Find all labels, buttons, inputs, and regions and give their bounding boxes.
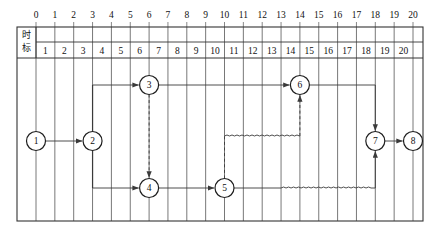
tick-label-18: 18 [371, 10, 381, 20]
node-8[interactable]: 8 [404, 132, 423, 151]
node-1[interactable]: 1 [27, 132, 46, 151]
tick-label-1: 1 [52, 10, 57, 20]
tick-label-16: 16 [333, 10, 343, 20]
diagram-canvas: 01234567891011121314151617181920 1234567… [0, 0, 426, 240]
node-6[interactable]: 6 [290, 76, 309, 95]
cell-number-10: 10 [210, 46, 220, 56]
tick-label-3: 3 [90, 10, 95, 20]
node-label-6: 6 [298, 80, 303, 90]
scale-header-char-0: 时 [22, 29, 31, 40]
cell-number-8: 8 [175, 46, 180, 56]
cell-number-16: 16 [323, 46, 333, 56]
cell-number-6: 6 [137, 46, 142, 56]
cell-number-2: 2 [62, 46, 67, 56]
scale-header-cell: 时标 [22, 29, 31, 53]
node-label-5: 5 [222, 183, 227, 193]
tick-label-4: 4 [109, 10, 114, 20]
tick-label-5: 5 [128, 10, 133, 20]
cell-number-12: 12 [248, 46, 258, 56]
cell-number-20: 20 [399, 46, 409, 56]
cell-number-layer: 1234567891011121314151617181920 [43, 46, 409, 56]
cell-number-11: 11 [229, 46, 238, 56]
node-label-1: 1 [34, 136, 39, 146]
tick-label-8: 8 [184, 10, 189, 20]
cell-number-17: 17 [342, 46, 352, 56]
node-label-8: 8 [411, 136, 416, 146]
tick-label-13: 13 [276, 10, 286, 20]
cell-number-13: 13 [267, 46, 277, 56]
cell-number-1: 1 [43, 46, 48, 56]
node-label-2: 2 [90, 136, 95, 146]
tick-label-10: 10 [220, 10, 230, 20]
cell-number-14: 14 [286, 46, 296, 56]
cell-number-5: 5 [118, 46, 123, 56]
cell-number-18: 18 [361, 46, 371, 56]
tick-label-14: 14 [295, 10, 305, 20]
tick-label-2: 2 [71, 10, 76, 20]
node-label-7: 7 [373, 136, 378, 146]
tick-label-0: 0 [34, 10, 39, 20]
cell-number-15: 15 [305, 46, 315, 56]
tick-label-layer: 01234567891011121314151617181920 [34, 10, 418, 20]
tick-label-12: 12 [257, 10, 267, 20]
cell-number-7: 7 [156, 46, 161, 56]
tick-label-20: 20 [408, 10, 418, 20]
cell-number-3: 3 [81, 46, 86, 56]
tick-label-19: 19 [389, 10, 399, 20]
node-2[interactable]: 2 [83, 132, 102, 151]
tick-label-11: 11 [239, 10, 248, 20]
cell-number-19: 19 [380, 46, 390, 56]
time-scaled-network-diagram: 01234567891011121314151617181920 1234567… [0, 0, 426, 240]
node-4[interactable]: 4 [140, 179, 159, 198]
node-3[interactable]: 3 [140, 76, 159, 95]
node-label-4: 4 [147, 183, 152, 193]
tick-label-7: 7 [166, 10, 171, 20]
tick-label-6: 6 [147, 10, 152, 20]
tick-label-15: 15 [314, 10, 324, 20]
edge-5-7-slack-wave [281, 187, 375, 188]
node-5[interactable]: 5 [215, 179, 234, 198]
scale-header-char-1: 标 [22, 42, 31, 53]
tick-label-17: 17 [352, 10, 362, 20]
cell-number-4: 4 [100, 46, 105, 56]
cell-number-9: 9 [194, 46, 199, 56]
node-7[interactable]: 7 [366, 132, 385, 151]
tick-label-9: 9 [203, 10, 208, 20]
node-label-3: 3 [147, 80, 152, 90]
